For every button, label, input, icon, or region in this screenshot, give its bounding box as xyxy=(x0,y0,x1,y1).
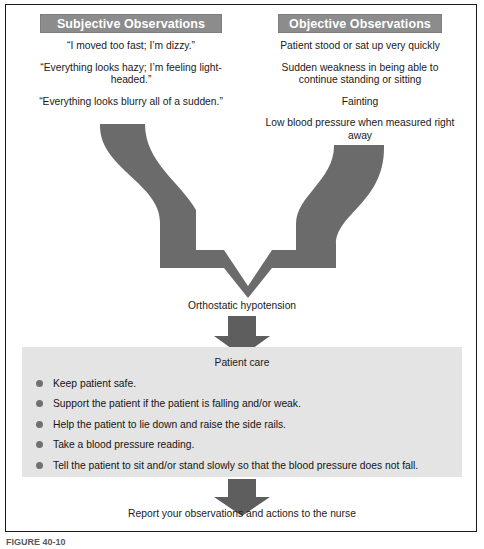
care-item-label: Take a blood pressure reading. xyxy=(53,439,194,450)
figure-root: Subjective Observations Objective Observ… xyxy=(0,0,484,549)
bullet-icon xyxy=(36,380,43,387)
subjective-observation-item: “Everything looks blurry all of a sudden… xyxy=(22,96,240,109)
merge-funnel-arrow-icon xyxy=(88,118,398,298)
report-label: Report your observations and actions to … xyxy=(0,508,484,519)
care-item-label: Support the patient if the patient is fa… xyxy=(53,398,301,409)
objective-observation-item: Sudden weakness in being able to continu… xyxy=(254,62,466,87)
subjective-observation-item: “I moved too fast; I’m dizzy.” xyxy=(22,40,240,53)
bullet-icon xyxy=(36,400,43,407)
bullet-icon xyxy=(36,462,43,469)
figure-caption: FIGURE 40-10 xyxy=(6,537,306,547)
patient-care-panel: Patient care Keep patient safe. Support … xyxy=(22,347,462,477)
care-list-item: Keep patient safe. xyxy=(33,378,461,390)
objective-observation-item: Fainting xyxy=(254,96,466,109)
care-item-label: Help the patient to lie down and raise t… xyxy=(53,419,286,430)
subjective-observations-list: “I moved too fast; I’m dizzy.” “Everythi… xyxy=(22,40,240,117)
care-item-label: Keep patient safe. xyxy=(53,378,136,389)
care-list-item: Take a blood pressure reading. xyxy=(33,439,461,451)
care-list-item: Help the patient to lie down and raise t… xyxy=(33,419,461,431)
patient-care-list: Keep patient safe. Support the patient i… xyxy=(33,378,461,480)
care-list-item: Tell the patient to sit and/or stand slo… xyxy=(33,460,461,472)
care-list-item: Support the patient if the patient is fa… xyxy=(33,398,461,410)
subjective-observation-item: “Everything looks hazy; I’m feeling ligh… xyxy=(22,62,240,87)
diagnosis-label: Orthostatic hypotension xyxy=(0,300,484,311)
objective-observation-item: Patient stood or sat up very quickly xyxy=(254,40,466,53)
patient-care-heading: Patient care xyxy=(22,357,462,368)
bullet-icon xyxy=(36,441,43,448)
objective-observations-header: Objective Observations xyxy=(278,14,442,33)
bullet-icon xyxy=(36,421,43,428)
subjective-observations-header: Subjective Observations xyxy=(40,14,222,33)
care-item-label: Tell the patient to sit and/or stand slo… xyxy=(53,460,418,471)
